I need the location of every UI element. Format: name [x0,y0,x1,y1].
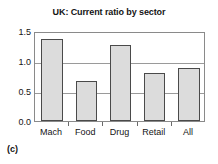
x-tick-mark [68,122,69,126]
bar-slot [144,33,165,121]
bar-drug[interactable] [110,45,131,121]
y-tick-label: 1.5 [1,27,31,37]
y-axis: 0.00.51.01.5 [0,32,31,122]
bar-food[interactable] [76,81,97,121]
bar-slot [178,33,199,121]
x-tick-label-retail: Retail [142,127,165,137]
bar-all[interactable] [178,68,199,121]
chart-figure: UK: Current ratio by sector 0.00.51.01.5… [0,0,218,164]
y-tick-label: 1.0 [1,57,31,67]
y-tick-label: 0.0 [1,117,31,127]
y-tick-label: 0.5 [1,87,31,97]
x-tick-label-drug: Drug [110,127,130,137]
x-tick-label-food: Food [75,127,96,137]
bar-retail[interactable] [144,73,165,121]
x-tick-label-all: All [183,127,193,137]
x-tick-label-mach: Mach [40,127,62,137]
x-axis: MachFoodDrugRetailAll [34,122,205,146]
panel-caption: (c) [7,144,18,154]
plot-area [34,32,205,122]
bar-slot [76,33,97,121]
bar-slot [41,33,62,121]
bar-series [35,33,204,121]
x-tick-mark [171,122,172,126]
x-tick-mark [137,122,138,126]
bar-slot [110,33,131,121]
x-tick-mark [102,122,103,126]
chart-title: UK: Current ratio by sector [0,7,218,17]
bar-mach[interactable] [41,39,62,121]
